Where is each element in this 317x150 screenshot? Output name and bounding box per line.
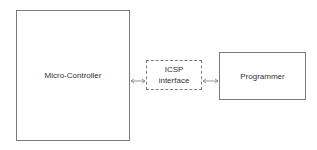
connections-layer (0, 0, 317, 150)
arrow-mcu-icsp (131, 79, 145, 83)
arrow-icsp-programmer (203, 79, 218, 83)
